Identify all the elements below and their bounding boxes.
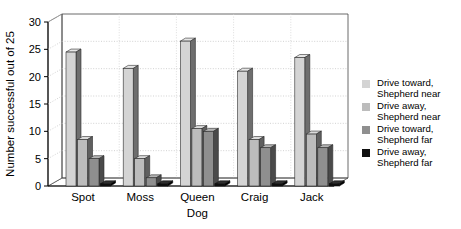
- bar-craig-s4-front: [272, 184, 282, 186]
- y-tick-label-25: 25: [29, 43, 41, 55]
- bar-jack-s3-front: [318, 148, 328, 186]
- legend-label-3-line2: Shepherd far: [377, 134, 433, 145]
- bar-jack-s1-front: [295, 58, 305, 186]
- legend-label-4-line2: Shepherd far: [377, 157, 433, 168]
- y-tick-label-20: 20: [29, 71, 41, 83]
- bar-spot-s3-front: [89, 159, 99, 186]
- y-tick-label-0: 0: [35, 180, 41, 192]
- bar-spot-s4-front: [101, 184, 111, 186]
- legend-label-3-line1: Drive toward,: [377, 123, 434, 134]
- bar-queen-s3-front: [203, 131, 213, 186]
- bar-craig-s3-front: [261, 148, 271, 186]
- bar-queen-s4-front: [215, 184, 225, 186]
- legend-label-1-line2: Shepherd near: [377, 88, 441, 99]
- bar-jack-s3-side: [328, 145, 333, 186]
- bar-queen-s1-front: [180, 41, 190, 186]
- legend-swatch-1: [362, 80, 370, 88]
- y-axis-ticks: 0 5 10 15 20 25 30: [29, 16, 48, 192]
- y-tick-label-10: 10: [29, 125, 41, 137]
- bar-spot-s2-front: [78, 140, 88, 186]
- bar-moss-s1-front: [123, 68, 133, 186]
- chart-canvas: 0 5 10 15 20 25 30 Number successful out…: [0, 0, 461, 229]
- x-label-spot: Spot: [71, 191, 95, 203]
- x-label-moss: Moss: [126, 191, 154, 203]
- bar-moss-s2-front: [135, 159, 145, 186]
- bar-queen-s2-front: [192, 129, 202, 186]
- x-axis-labels: Spot Moss Queen Craig Jack: [71, 191, 324, 203]
- legend-swatch-4: [362, 149, 370, 157]
- legend-swatch-2: [362, 103, 370, 111]
- x-label-craig: Craig: [241, 191, 268, 203]
- x-label-jack: Jack: [300, 191, 324, 203]
- bar-moss-s3-front: [146, 178, 156, 186]
- bar-chart: 0 5 10 15 20 25 30 Number successful out…: [0, 0, 461, 229]
- y-tick-label-15: 15: [29, 98, 41, 110]
- bar-craig-s2-front: [249, 140, 259, 186]
- bar-spot-s1-front: [66, 52, 76, 186]
- bar-craig-s3-side: [271, 145, 276, 186]
- bar-jack-s2-front: [306, 134, 316, 186]
- x-axis-title: Dog: [187, 207, 208, 219]
- bar-jack-s4-front: [329, 184, 339, 186]
- bar-moss-s4-front: [158, 184, 168, 186]
- legend-swatch-3: [362, 126, 370, 134]
- legend-label-2-line2: Shepherd near: [377, 111, 441, 122]
- bar-spot-s3-side: [99, 156, 104, 186]
- y-tick-label-30: 30: [29, 16, 41, 28]
- legend-label-4-line1: Drive away,: [377, 146, 426, 157]
- y-axis-title: Number successful out of 25: [4, 31, 16, 177]
- bar-craig-s1-front: [238, 71, 248, 186]
- y-tick-label-5: 5: [35, 153, 41, 165]
- x-label-queen: Queen: [180, 191, 215, 203]
- legend-label-2-line1: Drive away,: [377, 100, 426, 111]
- bar-queen-s3-side: [213, 128, 218, 186]
- legend: Drive toward, Shepherd near Drive away, …: [362, 77, 441, 168]
- legend-label-1-line1: Drive toward,: [377, 77, 434, 88]
